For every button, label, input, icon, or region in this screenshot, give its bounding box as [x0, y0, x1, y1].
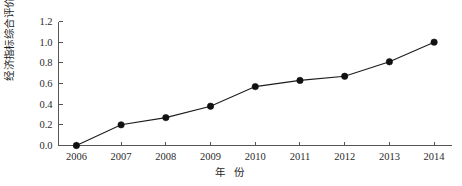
data-point-marker — [386, 59, 392, 65]
line-chart: 0.00.20.40.60.81.01.22006200720082009201… — [0, 0, 462, 186]
x-axis-title: 年 份 — [0, 164, 462, 179]
data-point-marker — [297, 77, 303, 83]
data-point-marker — [163, 114, 169, 120]
data-point-marker — [341, 73, 347, 79]
x-axis-tick-label: 2011 — [290, 151, 311, 162]
y-axis-tick-label: 0.4 — [39, 99, 53, 110]
y-axis-tick-label: 0.6 — [39, 78, 52, 89]
data-point-marker — [118, 122, 124, 128]
x-axis-tick-label: 2008 — [155, 151, 176, 162]
y-axis-tick-label: 1.2 — [39, 16, 52, 27]
x-axis-tick-label: 2014 — [424, 151, 446, 162]
x-axis-tick-label: 2010 — [245, 151, 266, 162]
y-axis-tick-label: 0.2 — [39, 119, 52, 130]
y-axis-tick-label: 0.8 — [39, 57, 52, 68]
x-axis-tick-label: 2012 — [334, 151, 355, 162]
series-line — [76, 42, 434, 145]
x-axis-tick-label: 2013 — [379, 151, 400, 162]
data-point-marker — [73, 142, 79, 148]
y-axis-tick-label: 1.0 — [39, 37, 52, 48]
chart-plot-area: 0.00.20.40.60.81.01.22006200720082009201… — [0, 0, 462, 186]
y-axis-tick-label: 0.0 — [39, 140, 52, 151]
x-axis-tick-label: 2007 — [111, 151, 132, 162]
data-point-marker — [431, 39, 437, 45]
y-axis-title: 经济指标综合评价值 — [3, 0, 17, 93]
data-point-marker — [207, 103, 213, 109]
x-axis-tick-label: 2009 — [200, 151, 221, 162]
data-point-marker — [252, 83, 258, 89]
x-axis-tick-label: 2006 — [66, 151, 87, 162]
